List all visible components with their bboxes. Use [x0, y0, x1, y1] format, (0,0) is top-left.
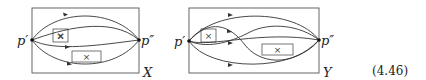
diagram-canvas: × × p′ p″ X × × p′ p″ [0, 0, 426, 80]
point-p-prime-y [187, 39, 191, 43]
path-top [32, 16, 139, 40]
diagram-x: × × p′ p″ X [17, 8, 154, 80]
frame-x [32, 8, 139, 73]
diagram-y: × × p′ p″ Y [174, 8, 334, 80]
arrow-bottom [228, 63, 233, 67]
frame-label-y: Y [323, 65, 333, 80]
arrow-top [228, 13, 233, 17]
point-p-prime-x [30, 38, 34, 42]
label-p-prime-y: p′ [174, 34, 185, 49]
obstacle-cross-1: × [57, 31, 65, 41]
path-upper-wave [32, 26, 139, 40]
path-bottom [189, 40, 319, 64]
obstacle-cross-2: × [274, 45, 282, 55]
path-middle [32, 40, 139, 47]
obstacle-cross-2: × [83, 52, 91, 62]
label-p-double-prime-y: p″ [321, 33, 334, 48]
label-p-prime-x: p′ [17, 33, 28, 48]
arrow-top [63, 13, 68, 17]
arrow-upper [227, 29, 232, 33]
arrow-middle [65, 45, 70, 49]
obstacle-cross-1: × [205, 31, 213, 41]
arrow-middle [228, 41, 233, 45]
equation-number: (4.46) [372, 64, 408, 78]
frame-label-x: X [142, 65, 153, 80]
label-p-double-prime-x: p″ [141, 33, 154, 48]
